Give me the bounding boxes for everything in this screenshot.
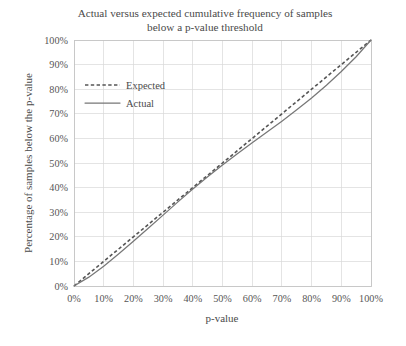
legend-label-expected: Expected [126, 80, 166, 91]
cumulative-frequency-line-chart: Actual versus expected cumulative freque… [0, 0, 406, 346]
x-axis-tick-label: 0% [67, 293, 81, 304]
x-axis-tick-label: 100% [359, 293, 383, 304]
y-axis-tick-label: 100% [44, 35, 68, 46]
chart-title-line-2: below a p-value threshold [147, 21, 263, 33]
y-axis-tick-label: 40% [49, 182, 68, 193]
x-axis-tick-label: 10% [94, 293, 113, 304]
y-axis-tick-label: 20% [49, 231, 68, 242]
x-axis-tick-label: 30% [154, 293, 173, 304]
chart-figure: Actual versus expected cumulative freque… [0, 0, 406, 346]
legend-label-actual: Actual [126, 98, 154, 109]
y-axis-tick-label: 0% [54, 281, 68, 292]
y-axis-tick-label: 30% [49, 207, 68, 218]
x-axis-tick-label: 40% [183, 293, 202, 304]
x-axis-tick-label: 70% [273, 293, 292, 304]
y-axis-title: Percentage of samples below the p-value [22, 73, 34, 253]
chart-title-line-1: Actual versus expected cumulative freque… [78, 7, 333, 19]
x-axis-title: p-value [206, 312, 239, 324]
x-axis-tick-label: 60% [243, 293, 262, 304]
x-axis-tick-label: 20% [124, 293, 143, 304]
x-axis-tick-label: 90% [332, 293, 351, 304]
y-axis-tick-label: 80% [49, 84, 68, 95]
y-axis-tick-label: 10% [49, 256, 68, 267]
x-axis-tick-label: 50% [213, 293, 232, 304]
y-axis-tick-label: 60% [49, 133, 68, 144]
y-axis-tick-label: 90% [49, 59, 68, 70]
y-axis-tick-label: 70% [49, 108, 68, 119]
x-axis-tick-label: 80% [302, 293, 321, 304]
y-axis-tick-label: 50% [49, 158, 68, 169]
